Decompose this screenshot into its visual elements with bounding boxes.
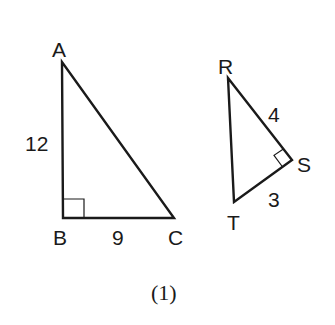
side-length-rs: 4 [268,103,280,126]
figure-caption: (1) [151,280,177,305]
vertex-label-b: B [53,226,67,249]
vertex-label-s: S [297,153,311,176]
right-angle-marker-s [274,149,283,167]
vertex-label-r: R [218,55,233,78]
triangle-rst-outline [228,78,292,202]
vertex-label-t: T [227,211,240,234]
triangle-abc-outline [62,62,174,218]
triangle-rst: R S T 4 3 [218,55,311,234]
right-angle-marker-b [63,199,84,218]
side-length-bc: 9 [112,226,124,249]
triangle-abc: A B C 12 9 [25,38,183,249]
vertex-label-c: C [168,226,183,249]
similar-right-triangles-figure: A B C 12 9 R S T 4 3 (1) [0,0,335,325]
side-length-st: 3 [268,188,280,211]
side-length-ab: 12 [25,132,48,155]
vertex-label-a: A [52,38,66,61]
